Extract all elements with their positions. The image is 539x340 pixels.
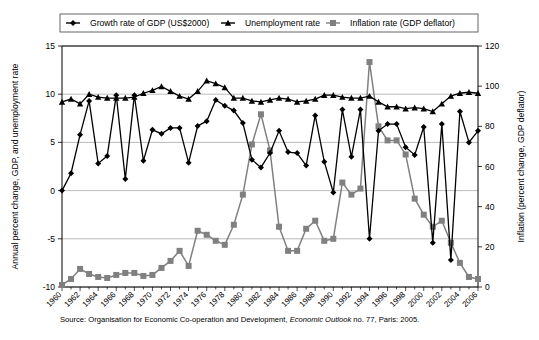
data-point-square [258, 111, 264, 117]
data-point-diamond [394, 121, 400, 127]
source-publication: Economic Outlook [290, 315, 353, 324]
right-tick-label: 120 [485, 41, 499, 51]
left-tick-label: 0 [50, 186, 55, 196]
source-text: Source: Organisation for Economic Co-ope… [60, 315, 419, 324]
data-point-square [357, 186, 363, 192]
data-point-square [439, 218, 445, 224]
data-point-square [149, 272, 155, 278]
data-point-triangle [149, 87, 155, 93]
right-tick-label: 40 [485, 202, 495, 212]
data-point-diamond [348, 154, 354, 160]
data-point-square [168, 258, 174, 264]
data-point-square [366, 59, 372, 65]
data-point-square [104, 275, 110, 281]
x-tick-label: 1986 [280, 290, 299, 309]
x-tick-label: 2002 [424, 290, 443, 309]
x-tick-label: 2004 [442, 290, 461, 309]
data-point-square [249, 141, 255, 147]
data-point-square [177, 248, 183, 254]
data-point-square [222, 242, 228, 248]
right-tick-label: 0 [485, 282, 490, 292]
x-tick-label: 1976 [189, 290, 208, 309]
data-point-square [213, 238, 219, 244]
source-prefix: Source: Organisation for Economic Co-ope… [60, 315, 290, 324]
data-point-diamond [195, 123, 201, 129]
data-point-diamond [186, 160, 192, 166]
legend-label-3: Inflation rate (GDP deflator) [350, 18, 455, 28]
data-point-square [385, 137, 391, 143]
data-point-square [421, 212, 427, 218]
data-point-diamond [68, 170, 74, 176]
x-tick-label: 1996 [370, 290, 389, 309]
data-point-square [59, 282, 65, 288]
x-tick-label: 1964 [81, 290, 100, 309]
left-axis-title: Annual percent change, GDP, and unemploy… [10, 63, 20, 269]
data-point-square [68, 276, 74, 282]
x-tick-label: 1992 [334, 290, 353, 309]
series-1 [59, 92, 481, 263]
data-point-diamond [366, 236, 372, 242]
left-tick-label: 10 [46, 89, 56, 99]
x-tick-label: 2000 [406, 290, 425, 309]
data-point-diamond [122, 176, 128, 182]
data-point-triangle [312, 96, 318, 102]
data-point-diamond [430, 240, 436, 246]
right-tick-label: 100 [485, 81, 499, 91]
x-tick-label: 1974 [171, 290, 190, 309]
data-point-diamond [357, 107, 363, 113]
data-point-triangle [222, 84, 228, 90]
right-axis-title: Inflation (percent change, GDP deflator) [516, 90, 526, 242]
data-point-diamond [204, 118, 210, 124]
data-point-diamond [339, 107, 345, 113]
data-point-square [113, 272, 119, 278]
data-point-diamond [285, 149, 291, 155]
x-tick-label: 1990 [316, 290, 335, 309]
x-tick-label: 1978 [207, 290, 226, 309]
legend: Growth rate of GDP (US$2000)Unemployment… [60, 14, 478, 32]
data-point-diamond [86, 98, 92, 104]
left-tick-label: 15 [46, 41, 56, 51]
left-tick-label: -5 [47, 234, 55, 244]
data-point-triangle [158, 83, 164, 89]
data-point-square [403, 151, 409, 157]
data-point-diamond [177, 125, 183, 131]
data-point-square [448, 240, 454, 246]
x-tick-label: 1966 [99, 290, 118, 309]
data-point-triangle [167, 88, 173, 94]
x-tick-label: 1962 [63, 290, 82, 309]
data-point-diamond [149, 127, 155, 133]
data-point-square [204, 232, 210, 238]
data-point-square [312, 218, 318, 224]
data-point-diamond [276, 128, 282, 134]
left-tick-label: -10 [43, 282, 56, 292]
data-point-diamond [312, 112, 318, 118]
data-point-triangle [375, 99, 381, 105]
x-tick-label: 2006 [460, 290, 479, 309]
data-point-square [457, 260, 463, 266]
x-tick-label: 1998 [388, 290, 407, 309]
data-point-diamond [448, 257, 454, 263]
left-tick-group: 151050-5-10 [43, 41, 62, 292]
x-tick-label: 1982 [243, 290, 262, 309]
data-point-square [276, 224, 282, 230]
data-point-square [131, 270, 137, 276]
left-tick-label: 5 [50, 137, 55, 147]
data-point-square [430, 224, 436, 230]
series-3 [59, 59, 481, 288]
data-point-square [412, 196, 418, 202]
data-point-square [285, 248, 291, 254]
data-point-square [321, 238, 327, 244]
right-tick-label: 20 [485, 242, 495, 252]
data-point-square [195, 228, 201, 234]
data-point-square [95, 274, 101, 280]
x-tick-label: 1970 [135, 290, 154, 309]
data-point-square [240, 192, 246, 198]
legend-label-2: Unemployment rate [245, 18, 320, 28]
data-point-square [466, 274, 472, 280]
x-tick-label: 1988 [298, 290, 317, 309]
source-note: Source: Organisation for Economic Co-ope… [60, 315, 419, 324]
data-point-diamond [77, 132, 83, 138]
data-point-square [303, 226, 309, 232]
data-point-square [231, 222, 237, 228]
x-tick-label: 1960 [44, 290, 63, 309]
